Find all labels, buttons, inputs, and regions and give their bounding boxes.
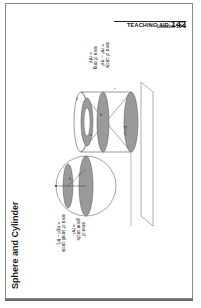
svg-text:h: h — [100, 112, 102, 117]
area-of-ring-label: area of ring = πh² — [88, 46, 98, 69]
label-line: area of small circle — [61, 214, 66, 252]
label-line: great circle — [76, 218, 81, 240]
label-line: area of circle — [105, 42, 110, 68]
label-line: area of ring — [93, 46, 98, 69]
area-of-circle-label: area of circle = πr² − πx² — [100, 42, 110, 68]
area-of-great-circle-label: area of great circle = πr² — [70, 218, 86, 240]
svg-text:r: r — [114, 86, 116, 91]
label-line: = πr² − πx² — [100, 42, 105, 68]
svg-text:B=πr²: B=πr² — [123, 126, 128, 137]
document-page: TEACHING AID142 Lesson 10-8 Sphere and C… — [5, 3, 193, 299]
svg-text:h: h — [69, 176, 71, 181]
label-line: area of — [81, 218, 86, 240]
svg-text:h: h — [76, 96, 78, 101]
document-page-wrap: TEACHING AID142 Lesson 10-8 Sphere and C… — [5, 3, 193, 299]
svg-text:x: x — [89, 132, 92, 137]
label-line: = πr² — [70, 218, 75, 240]
area-of-small-circle-label: area of small circle = π(r² − h²) — [56, 214, 66, 252]
sphere-figure: h r — [55, 156, 116, 216]
